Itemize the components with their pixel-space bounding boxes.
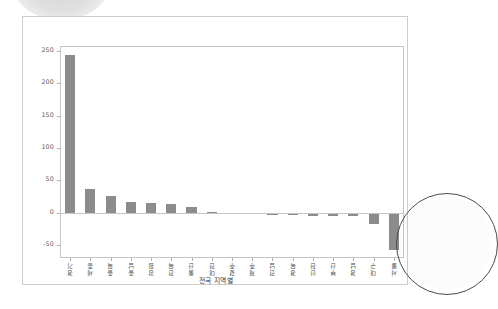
x-tick-label: 대구 xyxy=(370,263,376,276)
x-tick-mark xyxy=(171,258,172,261)
x-tick-label: 전남 xyxy=(269,263,275,276)
x-tick-label: 울산 xyxy=(188,263,194,276)
zero-baseline xyxy=(60,213,404,214)
x-tick-label: 대전 xyxy=(209,263,215,276)
x-tick-mark xyxy=(293,258,294,261)
bar xyxy=(369,213,379,224)
y-tick-label: 150 xyxy=(41,111,54,118)
x-tick-label: 인천 xyxy=(310,263,316,276)
bars-layer xyxy=(60,46,404,258)
bar-chart: 250200150100500-50 경기세종충북충남강원전북울산대전광주제주전… xyxy=(23,17,409,286)
x-tick-label: 부산 xyxy=(330,263,336,276)
x-axis-title: 전국 지역별 xyxy=(23,275,409,285)
x-tick-mark xyxy=(374,258,375,261)
x-tick-label: 충남 xyxy=(128,263,134,276)
x-tick-mark xyxy=(90,258,91,261)
x-tick-mark xyxy=(131,258,132,261)
x-tick-mark xyxy=(192,258,193,261)
y-tick-label: 200 xyxy=(41,78,54,85)
x-tick-label: 경북 xyxy=(290,263,296,276)
x-tick-mark xyxy=(151,258,152,261)
x-tick-mark xyxy=(313,258,314,261)
x-tick-mark xyxy=(70,258,71,261)
x-tick-mark xyxy=(212,258,213,261)
x-tick-mark xyxy=(272,258,273,261)
x-tick-mark xyxy=(111,258,112,261)
x-tick-mark xyxy=(353,258,354,261)
y-tick-label: -50 xyxy=(43,240,54,247)
scan-circle-arc-icon xyxy=(396,193,498,295)
y-tick-label: 50 xyxy=(46,175,54,182)
y-tick-label: 0 xyxy=(50,208,54,215)
bar xyxy=(146,203,156,213)
x-tick-mark xyxy=(333,258,334,261)
x-tick-label: 서울 xyxy=(391,263,397,276)
x-tick-label: 전북 xyxy=(168,263,174,276)
x-tick-label: 강원 xyxy=(148,263,154,276)
x-tick-label: 경남 xyxy=(350,263,356,276)
x-tick-label: 제주 xyxy=(249,263,255,276)
bar xyxy=(106,196,116,213)
bar xyxy=(126,202,136,212)
x-tick-label: 세종 xyxy=(87,263,93,276)
x-tick-label: 충북 xyxy=(107,263,113,276)
bar xyxy=(65,55,75,213)
chart-document-card: 250200150100500-50 경기세종충북충남강원전북울산대전광주제주전… xyxy=(22,16,408,285)
bar xyxy=(166,204,176,213)
y-axis: 250200150100500-50 xyxy=(23,46,60,258)
x-tick-mark xyxy=(252,258,253,261)
bar xyxy=(85,189,95,213)
x-tick-label: 광주 xyxy=(229,263,235,276)
y-tick-label: 100 xyxy=(41,143,54,150)
x-tick-mark xyxy=(394,258,395,261)
x-tick-mark xyxy=(232,258,233,261)
x-tick-label: 경기 xyxy=(67,263,73,276)
y-tick-label: 250 xyxy=(41,46,54,53)
